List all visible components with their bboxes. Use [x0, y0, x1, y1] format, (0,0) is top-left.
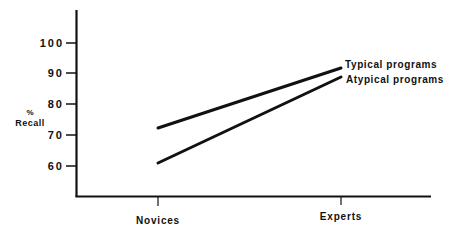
- y-ticks: [66, 43, 76, 166]
- legend-label-atypical: Atypical programs: [346, 74, 444, 85]
- x-tick-label-experts: Experts: [320, 211, 362, 222]
- y-tick-label: 90: [48, 67, 64, 79]
- y-axis-label-percent: %: [26, 108, 33, 117]
- recall-chart: 100 90 80 70 60 % Recall Novices Experts…: [0, 0, 464, 236]
- y-tick-label: 80: [48, 98, 64, 110]
- y-axis-label-recall: Recall: [15, 118, 45, 128]
- x-tick-label-novices: Novices: [136, 215, 180, 226]
- y-tick-label: 60: [48, 160, 64, 172]
- y-tick-label: 100: [40, 37, 64, 49]
- legend-label-typical: Typical programs: [345, 59, 437, 70]
- y-tick-labels: 100 90 80 70 60: [40, 37, 64, 172]
- y-tick-label: 70: [48, 129, 64, 141]
